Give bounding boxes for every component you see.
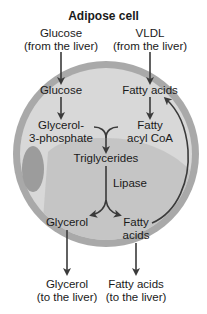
label-vldl-input-line2: (from the liver) (100, 40, 200, 53)
label-fa-out-line2: (to the liver) (96, 291, 176, 304)
label-vldl-input: VLDL (from the liver) (100, 27, 200, 53)
label-triglycerides: Triglycerides (61, 152, 151, 165)
label-lipase: Lipase (110, 177, 150, 190)
label-fatty-acids-top: Fatty acids (110, 84, 190, 97)
label-g3p-line2: 3-phosphate (16, 132, 106, 145)
label-glycerol-3-phosphate: Glycerol- 3-phosphate (16, 119, 106, 145)
label-glucose-input-line2: (from the liver) (11, 40, 111, 53)
label-facoa-line2: acyl CoA (120, 132, 180, 145)
label-fa-bottom-line2: acids (116, 229, 156, 242)
label-fatty-acyl-coa: Fatty acyl CoA (120, 119, 180, 145)
label-fa-out-line1: Fatty acids (96, 278, 176, 291)
label-glucose-input: Glucose (from the liver) (11, 27, 111, 53)
label-glycerol-out-line2: (to the liver) (27, 291, 107, 304)
label-fa-bottom-line1: Fatty (116, 216, 156, 229)
diagram-title: Adipose cell (0, 10, 207, 23)
label-glucose-input-line1: Glucose (11, 27, 111, 40)
label-glucose: Glucose (26, 84, 96, 97)
label-glycerol-output: Glycerol (to the liver) (27, 278, 107, 304)
label-fatty-acids-bottom: Fatty acids (116, 216, 156, 242)
nucleus (22, 146, 44, 192)
label-facoa-line1: Fatty (120, 119, 180, 132)
label-glycerol-out-line1: Glycerol (27, 278, 107, 291)
label-glycerol: Glycerol (40, 216, 94, 229)
label-fatty-acids-output: Fatty acids (to the liver) (96, 278, 176, 304)
label-vldl-input-line1: VLDL (100, 27, 200, 40)
label-g3p-line1: Glycerol- (16, 119, 106, 132)
